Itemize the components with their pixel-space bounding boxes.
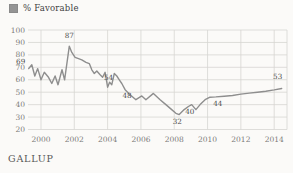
data-point-label: 53 — [273, 72, 283, 81]
source-label: GALLUP — [8, 153, 54, 164]
y-axis-tick-label: 50 — [15, 88, 25, 97]
data-point-label: 48 — [123, 91, 133, 100]
data-point-label: 87 — [65, 31, 75, 40]
y-axis-tick-label: 100 — [11, 26, 26, 35]
y-axis-tick-label: 30 — [15, 113, 25, 122]
data-point-label: 40 — [185, 107, 195, 116]
x-axis-tick-label: 2012 — [231, 135, 250, 144]
x-axis-tick-label: 2014 — [265, 135, 284, 144]
data-point-label: 54 — [104, 73, 114, 82]
x-axis-tick-label: 2006 — [131, 135, 150, 144]
data-point-label: 69 — [16, 57, 26, 66]
legend-label: % Favorable — [23, 3, 79, 13]
x-axis-tick-label: 2008 — [165, 135, 184, 144]
legend-swatch-icon — [9, 4, 18, 13]
data-point-label: 44 — [213, 99, 223, 108]
y-axis-tick-label: 90 — [15, 38, 25, 47]
y-axis-tick-label: 20 — [15, 125, 25, 134]
chart-card: % Favorable 1009080706050403020200020022… — [0, 0, 293, 173]
x-axis-tick-label: 2004 — [98, 135, 117, 144]
favorability-line-chart: 1009080706050403020200020022004200620082… — [0, 0, 293, 173]
data-point-label: 32 — [173, 117, 182, 126]
x-axis-tick-label: 2000 — [31, 135, 50, 144]
chart-legend: % Favorable — [9, 3, 79, 13]
x-axis-tick-label: 2002 — [65, 135, 84, 144]
y-axis-tick-label: 40 — [15, 100, 25, 109]
x-axis-tick-label: 2010 — [198, 135, 217, 144]
y-axis-tick-label: 60 — [15, 75, 25, 84]
